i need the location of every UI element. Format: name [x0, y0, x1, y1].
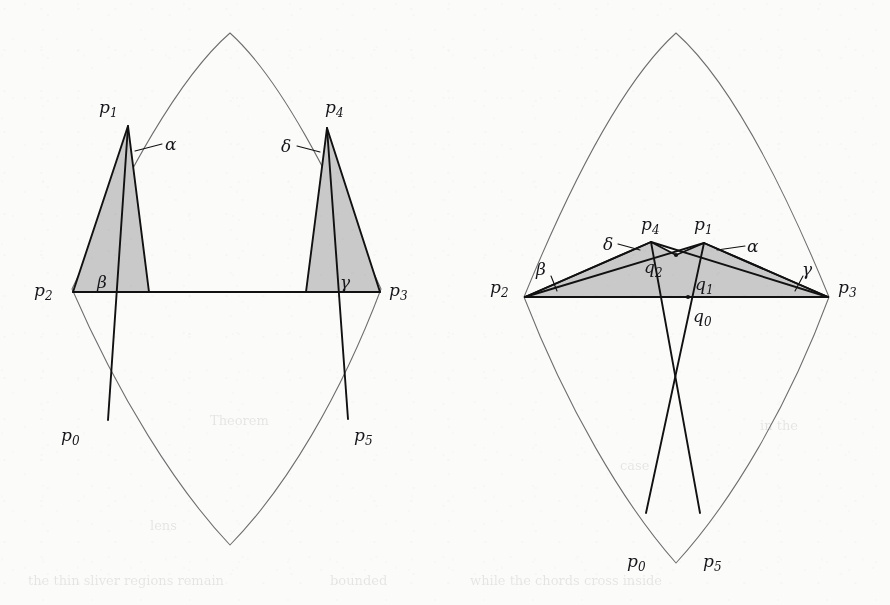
right-crossing-dot-upper — [674, 253, 678, 257]
right-alpha-leader — [717, 246, 745, 250]
right-lens-outline — [524, 33, 829, 563]
right-label-beta: β — [535, 259, 546, 279]
left-shaded-triangle-beta — [73, 126, 149, 292]
left-label-p0: p0 — [61, 425, 80, 448]
right-label-p2: p2 — [490, 277, 509, 300]
left-alpha-leader — [135, 144, 162, 151]
left-label-p1: p1 — [99, 97, 118, 120]
left-delta-leader — [297, 146, 320, 152]
scan-bleed-text: the thin sliver regions remain bounded w… — [28, 413, 798, 588]
figure-root: the thin sliver regions remain bounded w… — [0, 0, 890, 605]
svg-text:bounded: bounded — [330, 573, 387, 588]
right-label-p3: p3 — [838, 277, 857, 300]
left-label-beta: β — [96, 272, 107, 292]
svg-text:lens: lens — [150, 518, 177, 533]
left-label-p4: p4 — [325, 97, 344, 120]
right-label-p4: p4 — [641, 214, 660, 237]
right-label-delta: δ — [603, 234, 613, 254]
left-label-p2: p2 — [34, 280, 53, 303]
right-crossing-dot-q0 — [686, 295, 690, 299]
left-label-gamma: γ — [340, 272, 351, 292]
left-label-alpha: α — [165, 134, 177, 154]
right-label-p0: p0 — [627, 551, 646, 574]
right-label-p5: p5 — [703, 551, 722, 574]
svg-text:the thin sliver regions remain: the thin sliver regions remain — [28, 573, 225, 588]
right-lens-diagram: p2 p3 p4 p1 p0 p5 q0 q1 q2 α β γ δ — [490, 33, 857, 574]
left-lens-diagram: p1 p4 p2 p3 p0 p5 α β γ δ — [34, 33, 408, 545]
svg-text:while the chords cross inside: while the chords cross inside — [470, 573, 662, 588]
svg-text:case: case — [620, 458, 650, 473]
right-label-q0: q0 — [693, 306, 712, 329]
right-label-gamma: γ — [802, 259, 813, 279]
svg-text:Theorem: Theorem — [210, 413, 269, 428]
right-label-p1: p1 — [694, 214, 713, 237]
left-label-p5: p5 — [354, 425, 373, 448]
right-delta-leader — [618, 244, 640, 250]
svg-text:in the: in the — [760, 418, 798, 433]
left-shaded-triangle-gamma — [306, 128, 380, 292]
geometry-figure-svg: the thin sliver regions remain bounded w… — [0, 0, 890, 605]
right-label-alpha: α — [747, 236, 759, 256]
left-label-delta: δ — [281, 136, 291, 156]
left-label-p3: p3 — [389, 280, 408, 303]
